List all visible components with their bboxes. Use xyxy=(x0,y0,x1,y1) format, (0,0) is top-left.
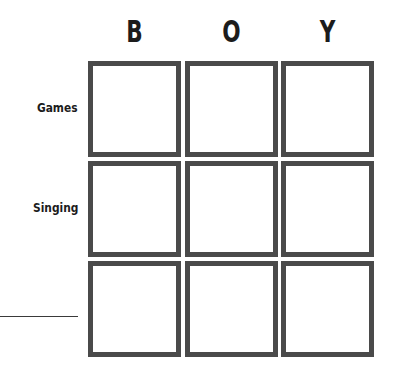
row-label-games: Games xyxy=(37,100,78,115)
column-header-o: O xyxy=(198,14,265,50)
grid-cell-r1-c1[interactable] xyxy=(88,61,181,157)
column-header-b: B xyxy=(101,14,168,50)
grid-cell-r3-c1[interactable] xyxy=(88,261,181,357)
grid-cell-r1-c3[interactable] xyxy=(281,61,374,157)
grid-cell-r1-c2[interactable] xyxy=(185,61,278,157)
column-header-y: Y xyxy=(294,14,361,50)
grid-cell-r3-c3[interactable] xyxy=(281,261,374,357)
grid-cell-r2-c1[interactable] xyxy=(88,161,181,257)
row-label-blank-line[interactable] xyxy=(0,316,78,317)
grid-cell-r3-c2[interactable] xyxy=(185,261,278,357)
grid-cell-r2-c3[interactable] xyxy=(281,161,374,257)
row-label-singing: Singing xyxy=(33,200,78,215)
grid-cell-r2-c2[interactable] xyxy=(185,161,278,257)
